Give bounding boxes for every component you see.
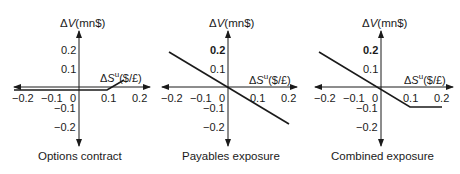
y-tick: 0.1 <box>61 63 76 75</box>
x-tick: 0.2 <box>281 92 296 104</box>
x-tick: 0.2 <box>132 92 147 104</box>
y-tick: 0.1 <box>210 63 225 75</box>
caption: Payables exposure <box>182 150 280 162</box>
y-axis-label: ΔV(mn$) <box>362 17 407 29</box>
y-tick: −0.2 <box>356 121 378 133</box>
y-tick: 0.2 <box>61 44 76 56</box>
y-axis-label: ΔV(mn$) <box>209 17 254 29</box>
x-axis-label: ΔSu($/£) <box>100 69 142 84</box>
y-tick: 0.1 <box>363 63 378 75</box>
panel-payables-exposure: ΔV(mn$) ΔSu($/£) −0.2 −0.1 0 0.1 0.2 0.2… <box>149 0 309 174</box>
y-tick: 0.2 <box>210 44 225 56</box>
x-axis-label: ΔSu($/£) <box>249 71 291 86</box>
x-tick: 0.1 <box>101 92 116 104</box>
y-tick: −0.1 <box>356 102 378 114</box>
x-tick: −0.2 <box>161 92 183 104</box>
x-tick: −0.2 <box>314 92 336 104</box>
payables-line <box>169 52 289 124</box>
caption: Options contract <box>38 150 122 162</box>
caption: Combined exposure <box>331 150 434 162</box>
y-axis-label: ΔV(mn$) <box>60 17 105 29</box>
y-tick: 0.2 <box>363 44 378 56</box>
panel-options-contract: ΔV(mn$) ΔSu($/£) −0.2 −0.1 0 0.1 0.2 0.2… <box>0 0 155 174</box>
x-tick: 0.2 <box>434 92 449 104</box>
y-tick: −0.2 <box>54 121 76 133</box>
x-tick: −0.2 <box>12 92 34 104</box>
y-tick: −0.1 <box>54 102 76 114</box>
x-tick: 0.1 <box>403 92 418 104</box>
x-tick: 0.1 <box>250 92 265 104</box>
x-axis-label: ΔSu($/£) <box>404 71 446 86</box>
panel-combined-exposure: ΔV(mn$) ΔSu($/£) −0.2 −0.1 0 0.1 0.2 0.2… <box>302 0 460 174</box>
y-tick: −0.1 <box>203 102 225 114</box>
y-tick: −0.2 <box>203 121 225 133</box>
